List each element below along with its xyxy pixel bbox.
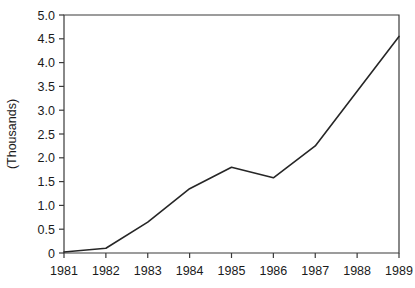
y-axis-title: (Thousands) [5, 99, 19, 169]
x-tick-label: 1989 [385, 264, 413, 278]
x-tick-label: 1986 [259, 264, 287, 278]
x-tick-label: 1983 [134, 264, 162, 278]
chart-background [0, 0, 415, 288]
x-tick-label: 1984 [176, 264, 204, 278]
y-tick-label: 4.5 [38, 32, 55, 46]
y-tick-label: 1.0 [38, 199, 55, 213]
x-tick-label: 1987 [301, 264, 329, 278]
chart-container: 00.51.01.52.02.53.03.54.04.55.0 19811982… [0, 0, 415, 288]
x-tick-label: 1988 [343, 264, 371, 278]
y-tick-label: 3.5 [38, 80, 55, 94]
y-tick-label: 5.0 [38, 9, 55, 23]
y-tick-label: 4.0 [38, 56, 55, 70]
y-tick-label: 2.5 [38, 128, 55, 142]
line-chart: 00.51.01.52.02.53.03.54.04.55.0 19811982… [0, 0, 415, 288]
y-tick-label: 0 [48, 247, 55, 261]
y-tick-label: 0.5 [38, 223, 55, 237]
y-tick-label: 3.0 [38, 104, 55, 118]
x-tick-label: 1981 [50, 264, 78, 278]
y-tick-label: 1.5 [38, 175, 55, 189]
x-tick-label: 1985 [218, 264, 246, 278]
y-tick-label: 2.0 [38, 151, 55, 165]
x-tick-label: 1982 [92, 264, 120, 278]
